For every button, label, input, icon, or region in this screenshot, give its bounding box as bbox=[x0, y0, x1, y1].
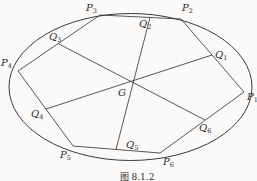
figure-caption: 图 8.1.2 bbox=[120, 172, 155, 181]
label-p1: P1 bbox=[246, 91, 257, 104]
cevian-q3-q6 bbox=[58, 44, 205, 121]
label-p4: P4 bbox=[0, 57, 12, 70]
cevian-q1-q4 bbox=[46, 55, 212, 109]
label-q4: Q4 bbox=[31, 108, 43, 121]
geometry-figure: P1 P2 P3 P4 P5 P6 Q1 Q2 Q3 Q4 Q5 Q6 G 图 … bbox=[0, 0, 257, 181]
figure-page: P1 P2 P3 P4 P5 P6 Q1 Q2 Q3 Q4 Q5 Q6 G 图 … bbox=[0, 0, 257, 181]
label-q6: Q6 bbox=[199, 122, 211, 135]
label-g: G bbox=[118, 87, 126, 98]
label-q3: Q3 bbox=[49, 31, 61, 44]
cevian-q2-q5 bbox=[116, 18, 150, 150]
label-p2: P2 bbox=[181, 2, 193, 15]
label-p3: P3 bbox=[85, 2, 97, 15]
label-p6: P6 bbox=[162, 156, 174, 169]
